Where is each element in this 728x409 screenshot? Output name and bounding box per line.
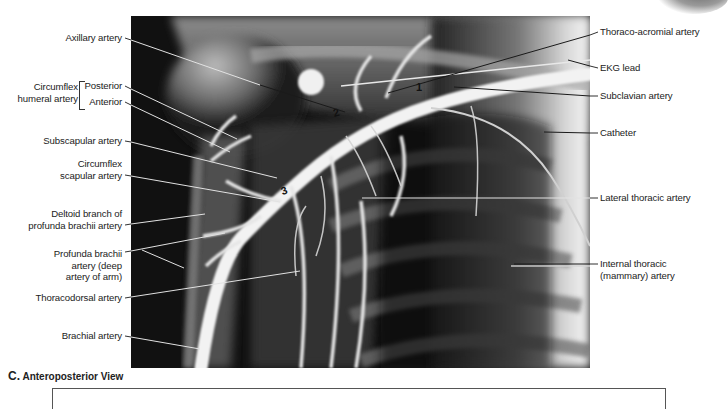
panel-letter: C.: [8, 369, 20, 383]
label-internal-thoracic-artery: Internal thoracic (mammary) artery: [600, 258, 675, 281]
label-subclavian-artery: Subclavian artery: [600, 90, 672, 102]
label-deltoid-branch-line1: Deltoid branch of: [28, 208, 122, 220]
label-internal-thoracic-line2: (mammary) artery: [600, 270, 675, 282]
next-panel-box: [52, 388, 666, 409]
label-ekg-lead: EKG lead: [600, 62, 640, 74]
label-circumflex-scapular-artery: Circumflex scapular artery: [60, 158, 122, 181]
label-circumflex-scapular-line1: Circumflex: [60, 158, 122, 170]
page-corner-tab: [658, 0, 728, 14]
label-lateral-thoracic-artery: Lateral thoracic artery: [600, 192, 690, 204]
label-subscapular-artery: Subscapular artery: [43, 135, 122, 147]
label-circumflex-scapular-line2: scapular artery: [60, 170, 122, 182]
label-brachial-artery: Brachial artery: [62, 330, 122, 342]
label-thoraco-acromial-artery: Thoraco-acromial artery: [600, 26, 700, 38]
label-posterior-circumflex-humeral: Posterior: [85, 80, 123, 92]
label-axillary-artery: Axillary artery: [65, 32, 122, 44]
view-title: Anteroposterior View: [22, 371, 123, 382]
label-profunda-brachii-line2: artery (deep: [54, 260, 122, 272]
label-profunda-brachii-artery: Profunda brachii artery (deep artery of …: [54, 248, 122, 283]
angiogram-image: 1 2 3: [131, 16, 590, 368]
segment-number-1: 1: [416, 81, 422, 93]
label-anterior-circumflex-humeral: Anterior: [89, 96, 122, 108]
label-thoracodorsal-artery: Thoracodorsal artery: [35, 292, 122, 304]
label-profunda-brachii-line3: artery of arm): [54, 271, 122, 283]
label-catheter: Catheter: [600, 127, 636, 139]
label-deltoid-branch-line2: profunda brachii artery: [28, 220, 122, 232]
figure-caption: C. Anteroposterior View: [8, 369, 123, 383]
label-deltoid-branch: Deltoid branch of profunda brachii arter…: [28, 208, 122, 231]
label-circumflex-humeral-group: Circumflex humeral artery: [18, 81, 78, 104]
label-internal-thoracic-line1: Internal thoracic: [600, 258, 675, 270]
label-circumflex-humeral-line2: humeral artery: [18, 93, 78, 105]
label-circumflex-humeral-line1: Circumflex: [18, 81, 78, 93]
label-profunda-brachii-line1: Profunda brachii: [54, 248, 122, 260]
